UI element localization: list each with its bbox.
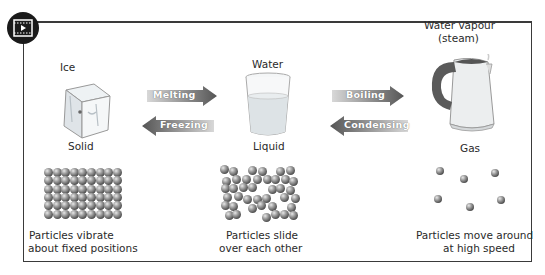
solid-description-1: Particles vibrate: [29, 229, 114, 242]
solid-particles: [44, 168, 122, 218]
boiling-arrow: Boiling: [332, 86, 404, 106]
particle: [44, 176, 53, 185]
particle: [289, 177, 298, 186]
particle: [113, 210, 122, 219]
particle: [104, 210, 113, 219]
particle: [61, 201, 70, 210]
particle: [434, 195, 442, 203]
gas-description-2: at high speed: [443, 242, 515, 255]
particle: [243, 195, 252, 204]
water-label: Water: [252, 58, 283, 71]
water-glass-icon: [243, 72, 293, 138]
particle: [232, 210, 241, 219]
particle: [61, 176, 70, 185]
particle: [466, 203, 474, 211]
liquid-label: Liquid: [253, 140, 285, 153]
gas-description-1: Particles move around: [416, 229, 533, 242]
particle: [229, 167, 238, 176]
particle: [291, 194, 300, 203]
particle: [497, 196, 505, 204]
particle: [271, 175, 280, 184]
liquid-particles: [218, 165, 298, 221]
liquid-description-2: over each other: [219, 242, 302, 255]
particle: [289, 211, 298, 220]
particle: [248, 183, 257, 192]
ice-cube-icon: [52, 82, 114, 140]
condensing-arrow: Condensing: [330, 116, 408, 136]
particle: [280, 193, 289, 202]
particle: [271, 210, 280, 219]
particle: [87, 201, 96, 210]
particle: [113, 201, 122, 210]
solid-description-2: about fixed positions: [28, 242, 138, 255]
freezing-arrow: Freezing: [142, 116, 214, 136]
video-play-icon: [13, 19, 33, 37]
particle: [113, 176, 122, 185]
boiling-label: Boiling: [346, 89, 385, 100]
particle: [87, 176, 96, 185]
particle: [257, 201, 266, 210]
particle: [87, 210, 96, 219]
solid-label: Solid: [68, 140, 94, 153]
particle: [286, 166, 295, 175]
vapour-label-1: Water vapour: [424, 19, 495, 32]
video-badge[interactable]: [7, 12, 39, 44]
melting-label: Melting: [153, 89, 196, 100]
particle: [280, 210, 289, 219]
particle: [276, 184, 285, 193]
particle: [221, 184, 230, 193]
particle: [248, 204, 257, 213]
gas-label: Gas: [460, 142, 480, 155]
liquid-description-1: Particles slide: [226, 229, 298, 242]
particle: [61, 210, 70, 219]
particle: [44, 210, 53, 219]
melting-arrow: Melting: [147, 86, 217, 106]
particle: [220, 165, 229, 174]
particle: [232, 175, 241, 184]
gas-particles: [428, 163, 528, 219]
kettle-icon: [428, 54, 498, 134]
particle: [491, 169, 499, 177]
particle: [460, 175, 468, 183]
particle: [239, 183, 248, 192]
particle: [44, 201, 53, 210]
particle: [104, 201, 113, 210]
vapour-label-2: (steam): [438, 32, 479, 45]
particle: [234, 192, 243, 201]
particle: [104, 176, 113, 185]
ice-label: Ice: [60, 61, 75, 74]
particle: [436, 167, 444, 175]
particle: [248, 166, 257, 175]
condensing-label: Condensing: [344, 119, 410, 130]
freezing-label: Freezing: [160, 119, 208, 130]
